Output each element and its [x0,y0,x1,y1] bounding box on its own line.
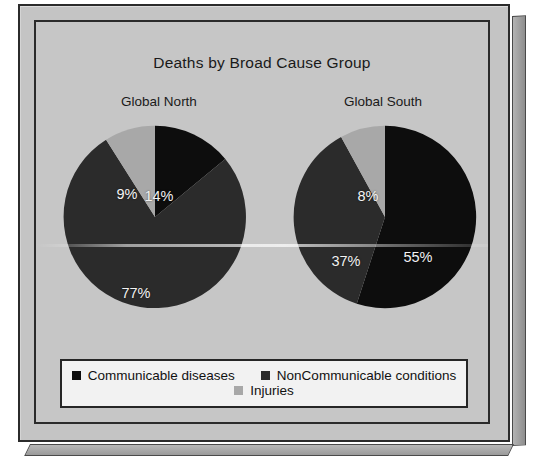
frame-bottom-bevel [24,444,514,456]
pie-south-svg [290,122,480,312]
legend-item-communicable-diseases[interactable]: Communicable diseases [72,368,235,383]
legend-label-injuries: Injuries [250,383,294,398]
legend-row-top: Communicable diseases NonCommunicable co… [68,368,460,383]
square-swatch-icon [72,371,81,380]
legend-label-noncommunicable-conditions: NonCommunicable conditions [277,368,456,383]
chart-plot-panel: Deaths by Broad Cause Group Global North… [34,20,490,424]
pie-north-svg [60,122,250,312]
legend-row-bottom: Injuries [68,383,460,398]
scanned-page: permission. Deaths by Broad Cause Group … [0,0,540,472]
legend-item-noncommunicable-conditions[interactable]: NonCommunicable conditions [261,368,456,383]
chart-title: Deaths by Broad Cause Group [36,54,488,72]
pie-title-global-north: Global North [64,94,254,109]
pie-south-label-injuries: 8% [358,188,379,204]
pie-chart-global-south: 55% 37% 8% [290,122,480,334]
pie-north-label-communicable: 14% [144,188,173,204]
square-swatch-icon [261,371,270,380]
frame-right-bevel [512,15,526,446]
pie-title-global-south: Global South [288,94,478,109]
chart-frame-face: Deaths by Broad Cause Group Global North… [18,4,510,442]
pie-south-label-communicable: 55% [403,249,432,265]
legend-item-injuries[interactable]: Injuries [234,383,294,398]
square-swatch-icon [234,386,243,395]
chart-legend: Communicable diseases NonCommunicable co… [60,359,468,408]
pie-north-label-injuries: 9% [117,186,138,202]
pie-south-label-noncommunicable: 37% [331,253,360,269]
pie-chart-global-north: 14% 77% 9% [60,122,250,334]
chart-3d-frame: Deaths by Broad Cause Group Global North… [18,4,526,456]
legend-label-communicable-diseases: Communicable diseases [88,368,235,383]
pie-north-label-noncommunicable: 77% [121,285,150,301]
